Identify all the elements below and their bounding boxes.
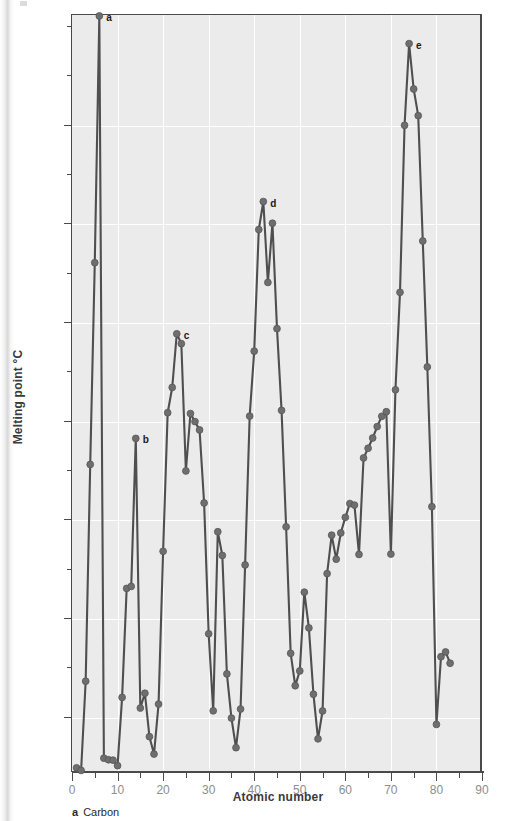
- data-point: [369, 435, 376, 442]
- data-point: [228, 715, 235, 722]
- data-point: [242, 562, 249, 569]
- data-point: [310, 691, 317, 698]
- caption-text: Carbon: [83, 806, 119, 818]
- data-point: [274, 325, 281, 332]
- data-point: [328, 532, 335, 539]
- x-axis-title: Atomic number: [72, 790, 484, 804]
- data-point: [223, 670, 230, 677]
- data-point: [319, 708, 326, 715]
- data-point: [442, 649, 449, 656]
- data-point: [324, 570, 331, 577]
- data-point: [356, 551, 363, 558]
- annotation-label-d: d: [270, 198, 276, 209]
- data-point: [401, 122, 408, 129]
- data-point: [233, 744, 240, 751]
- data-point: [87, 461, 94, 468]
- caption-key: a: [72, 806, 78, 818]
- data-point: [96, 13, 103, 20]
- data-point: [406, 40, 413, 47]
- data-point: [287, 650, 294, 657]
- data-point: [260, 198, 267, 205]
- data-point: [201, 500, 208, 507]
- data-point: [128, 583, 135, 590]
- data-point: [433, 721, 440, 728]
- melting-point-chart-figure: 05001,0001,5002,0002,5003,000 0102030405…: [0, 0, 510, 821]
- data-point: [337, 530, 344, 537]
- annotation-label-c: c: [184, 330, 190, 341]
- data-point: [342, 514, 349, 521]
- data-point: [114, 762, 121, 769]
- data-point: [205, 630, 212, 637]
- data-point: [178, 340, 185, 347]
- data-point: [182, 468, 189, 475]
- data-point: [264, 279, 271, 286]
- data-point: [269, 220, 276, 227]
- melting-point-series: [0, 0, 510, 821]
- data-point: [333, 556, 340, 563]
- data-point: [415, 112, 422, 119]
- data-point: [374, 423, 381, 430]
- data-point: [169, 384, 176, 391]
- data-point: [160, 548, 167, 555]
- data-point: [365, 445, 372, 452]
- data-point: [251, 348, 258, 355]
- annotation-label-b: b: [143, 434, 149, 445]
- data-point: [392, 386, 399, 393]
- data-point: [192, 418, 199, 425]
- annotation-label-e: e: [416, 40, 422, 51]
- data-point: [110, 757, 117, 764]
- data-point: [196, 427, 203, 434]
- data-point: [447, 660, 454, 667]
- annotation-label-a: a: [106, 12, 112, 23]
- data-point: [315, 735, 322, 742]
- data-point: [214, 528, 221, 535]
- y-axis-title: Melting point °C: [11, 317, 25, 477]
- data-point: [255, 226, 262, 233]
- data-point: [387, 551, 394, 558]
- data-point: [351, 502, 358, 509]
- data-point: [360, 455, 367, 462]
- data-point: [424, 364, 431, 371]
- data-point: [383, 408, 390, 415]
- data-point: [219, 552, 226, 559]
- data-point: [119, 694, 126, 701]
- figure-caption: aCarbon: [72, 806, 119, 818]
- data-point: [141, 690, 148, 697]
- data-point: [173, 330, 180, 337]
- data-point: [296, 668, 303, 675]
- data-point: [91, 259, 98, 266]
- data-point: [137, 705, 144, 712]
- series-markers: [73, 13, 453, 774]
- data-point: [155, 701, 162, 708]
- data-point: [146, 733, 153, 740]
- data-point: [419, 238, 426, 245]
- data-point: [164, 409, 171, 416]
- data-point: [292, 682, 299, 689]
- data-point: [78, 767, 85, 774]
- data-point: [151, 751, 158, 758]
- data-point: [210, 707, 217, 714]
- data-point: [283, 523, 290, 530]
- data-point: [82, 678, 89, 685]
- data-point: [305, 625, 312, 632]
- data-point: [246, 413, 253, 420]
- data-point: [397, 289, 404, 296]
- data-point: [278, 407, 285, 414]
- data-point: [187, 410, 194, 417]
- data-point: [132, 435, 139, 442]
- data-point: [410, 86, 417, 93]
- data-point: [237, 706, 244, 713]
- data-point: [428, 503, 435, 510]
- data-point: [301, 589, 308, 596]
